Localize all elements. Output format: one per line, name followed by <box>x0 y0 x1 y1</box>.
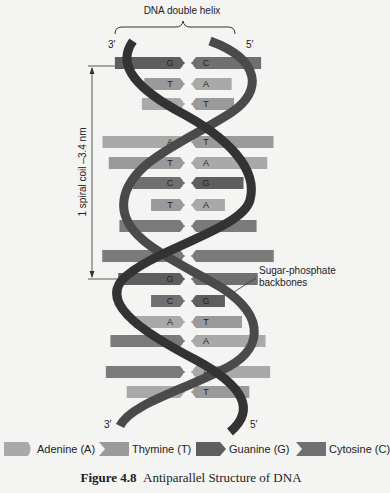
legend-item-guanine: Guanine (G) <box>196 441 290 457</box>
legend-label-adenine: Adenine (A) <box>37 443 95 455</box>
guanine-swatch-icon <box>196 442 226 456</box>
base-label-right: A <box>203 200 209 210</box>
base-label-left: T <box>167 79 173 89</box>
base-label-left: G <box>166 274 173 284</box>
base-label-right: A <box>203 158 209 168</box>
base-label-right: G <box>202 178 209 188</box>
base-label-right: T <box>203 99 209 109</box>
measure-label: 1 spiral coil –3.4 nm <box>77 128 88 217</box>
base-label-left: G <box>166 58 173 68</box>
base-pair-row: GC <box>118 273 258 285</box>
base-pair-row: TA <box>144 78 231 90</box>
base-right <box>191 316 242 328</box>
backbone-label-line2: backbones <box>259 277 307 288</box>
base-pair-row: CG <box>132 177 243 189</box>
base-pair-row: TA <box>151 199 225 211</box>
strand-end-top-right: 5′ <box>246 39 254 50</box>
base-pair-row: CG <box>151 295 225 307</box>
legend-label-cytosine: Cytosine (C) <box>329 443 390 455</box>
caption-number: Figure 4.8 <box>80 470 136 485</box>
strand-end-bottom-right: 5′ <box>250 419 258 430</box>
strand-end-top-left: 3′ <box>108 39 116 50</box>
base-label-right: T <box>203 137 209 147</box>
legend-item-cytosine: Cytosine (C) <box>296 441 390 457</box>
base-right <box>191 250 274 262</box>
title-brace <box>115 21 235 34</box>
legend: Adenine (A) Thymine (T) Guanine (G) Cyto… <box>0 441 382 457</box>
base-label-right: G <box>202 296 209 306</box>
base-right <box>191 98 234 110</box>
legend-item-thymine: Thymine (T) <box>99 441 191 457</box>
base-label-right: T <box>203 317 209 327</box>
figure-caption: Figure 4.8 Antiparallel Structure of DNA <box>0 470 382 486</box>
base-label-left: C <box>167 178 174 188</box>
base-label-left: C <box>167 296 174 306</box>
thymine-swatch-icon <box>99 442 129 456</box>
base-label-right: C <box>203 58 210 68</box>
legend-label-guanine: Guanine (G) <box>229 443 290 455</box>
diagram-title: DNA double helix <box>144 5 221 16</box>
base-label-left: T <box>167 158 173 168</box>
base-left <box>106 366 185 378</box>
base-right <box>191 177 244 189</box>
measurement-bracket <box>88 66 124 279</box>
cytosine-swatch-icon <box>296 442 326 456</box>
base-label-left: T <box>167 200 173 210</box>
legend-item-adenine: Adenine (A) <box>4 441 95 457</box>
base-pair-row: AT <box>134 316 242 328</box>
base-right <box>191 78 232 90</box>
base-pair-row: A <box>110 335 265 347</box>
adenine-swatch-icon <box>4 442 34 456</box>
backbone-label-line1: Sugar-phosphate <box>259 265 336 276</box>
base-label-right: A <box>203 79 209 89</box>
caption-text: Antiparallel Structure of DNA <box>143 470 301 485</box>
base-label-right: T <box>203 387 209 397</box>
base-label-right: A <box>203 336 209 346</box>
strand-end-bottom-left: 3′ <box>104 419 112 430</box>
base-label-left: A <box>167 317 173 327</box>
base-left <box>132 177 185 189</box>
base-pair-row <box>102 250 274 262</box>
legend-label-thymine: Thymine (T) <box>132 443 191 455</box>
base-pair-row: A <box>106 366 270 378</box>
